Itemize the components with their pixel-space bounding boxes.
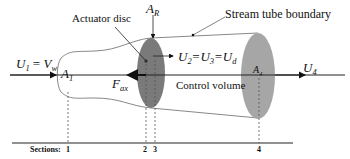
stream-tube-boundary-label: Stream tube boundary [225, 8, 331, 20]
control-volume-label: Control volume [176, 80, 245, 91]
ar-symbol: AR [146, 2, 159, 17]
actuator-disc-shape [137, 38, 165, 108]
section-3-number: 3 [153, 146, 157, 154]
diagram-graphics [0, 0, 350, 159]
u4-symbol: U4 [303, 61, 317, 76]
actuator-disc-label: Actuator disc [72, 13, 131, 24]
u2-u3-ud-symbol: U2=U3=Ud [178, 50, 236, 65]
section-2-number: 2 [143, 146, 147, 154]
actuator-disc-diagram: Actuator disc Stream tube boundary Contr… [0, 0, 350, 159]
u1-vw-symbol: U1 = Vw [16, 57, 57, 72]
a4-symbol: A4 [253, 65, 262, 78]
section-1-number: 1 [66, 146, 70, 154]
fax-symbol: Fax [112, 77, 128, 92]
actuator-disc-pointer [115, 27, 146, 61]
stream-tube-pointer [193, 17, 225, 35]
section-4-number: 4 [257, 146, 261, 154]
sections-label: Sections: [30, 146, 61, 154]
a1-symbol: A1 [61, 67, 73, 82]
